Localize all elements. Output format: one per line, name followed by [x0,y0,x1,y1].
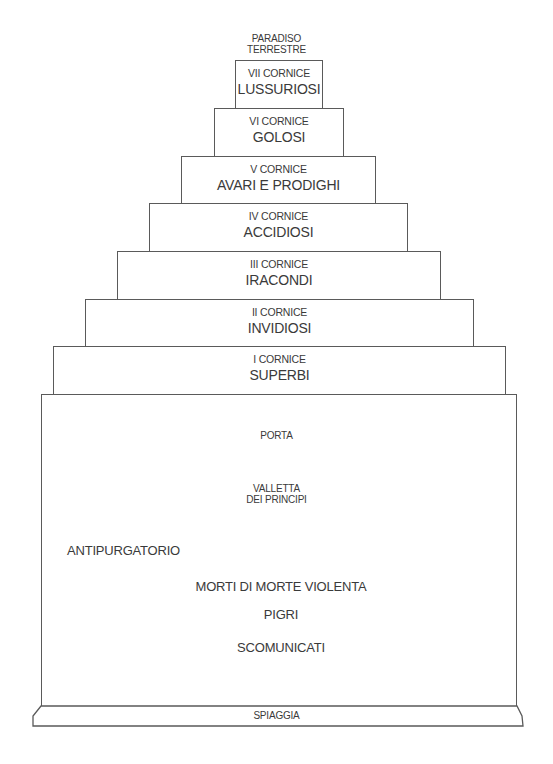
shore-base-shape [0,0,553,764]
shore-label: SPIAGGIA [0,710,553,721]
